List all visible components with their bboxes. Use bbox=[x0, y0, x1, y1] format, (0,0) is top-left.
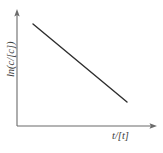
x-axis-label: t/[t] bbox=[112, 131, 129, 142]
y-axis-label: ln(c/[c]) bbox=[6, 31, 17, 87]
plot-canvas bbox=[0, 0, 163, 153]
data-line-series bbox=[33, 24, 127, 102]
x-axis-group bbox=[17, 123, 157, 128]
kinetics-plot-figure: ln(c/[c]) t/[t] bbox=[0, 0, 163, 153]
